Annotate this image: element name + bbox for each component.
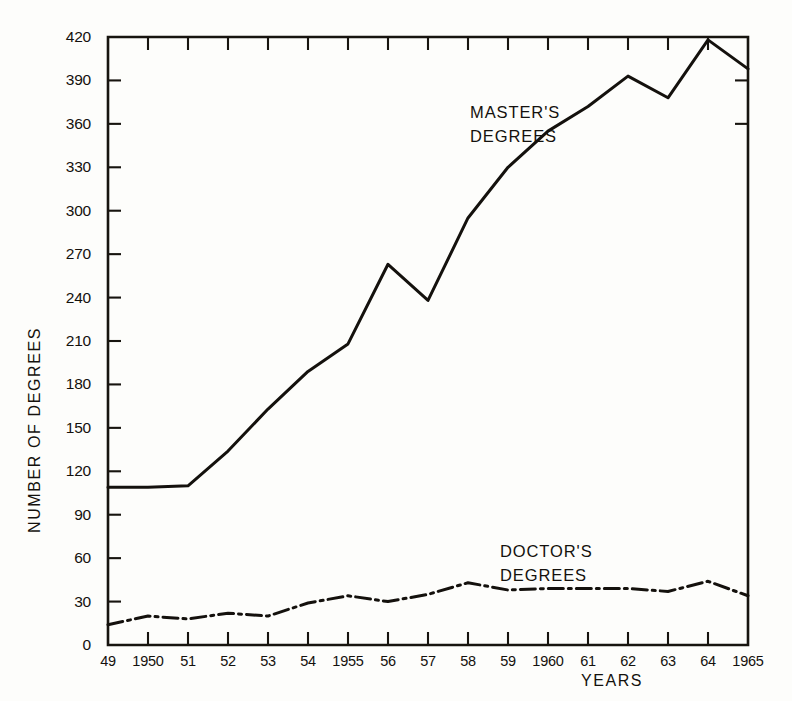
series-lines: [108, 40, 748, 625]
masters-annotation-line: MASTER'S: [470, 103, 560, 121]
y-tick-label: 300: [66, 202, 92, 219]
x-tick-label: 63: [660, 653, 676, 669]
y-tick-label: 60: [74, 549, 91, 566]
x-tick-label: 56: [380, 653, 396, 669]
plot-border: [108, 37, 748, 645]
y-tick-label: 150: [66, 419, 92, 436]
x-axis-title: YEARS: [581, 672, 643, 689]
masters-annotation: MASTER'SDEGREES: [470, 103, 560, 145]
y-tick-label: 120: [66, 462, 92, 479]
y-tick-label: 30: [74, 593, 91, 610]
doctors-annotation-line: DEGREES: [500, 566, 587, 584]
degrees-line-chart: 0306090120150180210240270300330360390420…: [0, 0, 792, 701]
doctors-annotation: DOCTOR'SDEGREES: [500, 542, 593, 584]
x-tick-label: 59: [500, 653, 516, 669]
series-annotations: MASTER'SDEGREESDOCTOR'SDEGREES: [470, 103, 593, 584]
x-tick-label: 61: [580, 653, 596, 669]
y-tick-label: 0: [83, 636, 92, 653]
x-tick-label: 53: [260, 653, 276, 669]
y-axis-ticks: [108, 80, 748, 601]
y-tick-label: 270: [66, 245, 92, 262]
x-tick-label: 62: [620, 653, 636, 669]
x-axis-ticks: [148, 37, 708, 645]
x-tick-label: 64: [700, 653, 716, 669]
x-tick-label: 54: [300, 653, 316, 669]
x-tick-label: 57: [420, 653, 436, 669]
y-tick-label: 360: [66, 115, 92, 132]
x-tick-label: 52: [220, 653, 236, 669]
y-tick-label: 240: [66, 289, 92, 306]
y-tick-label: 330: [66, 158, 92, 175]
doctors-annotation-line: DOCTOR'S: [500, 542, 593, 560]
x-tick-label: 58: [460, 653, 476, 669]
x-axis-tick-labels: 4919505152535419555657585919606162636419…: [100, 653, 764, 669]
x-tick-label: 1955: [332, 653, 364, 669]
x-tick-label: 49: [100, 653, 116, 669]
masters-annotation-line: DEGREES: [470, 127, 557, 145]
x-tick-label: 1960: [532, 653, 564, 669]
y-tick-label: 390: [66, 71, 92, 88]
masters-degrees-line: [108, 40, 748, 487]
doctors-degrees-line: [108, 581, 748, 624]
y-tick-label: 420: [66, 28, 92, 45]
y-tick-label: 180: [66, 375, 92, 392]
x-tick-label: 51: [180, 653, 196, 669]
y-axis-tick-labels: 0306090120150180210240270300330360390420: [66, 28, 92, 653]
y-axis-title: NUMBER OF DEGREES: [26, 327, 43, 533]
chart-container: 0306090120150180210240270300330360390420…: [0, 0, 792, 701]
y-tick-label: 90: [74, 506, 91, 523]
plot-frame: [108, 37, 748, 645]
x-tick-label: 1965: [732, 653, 764, 669]
x-tick-label: 1950: [132, 653, 164, 669]
y-tick-label: 210: [66, 332, 92, 349]
